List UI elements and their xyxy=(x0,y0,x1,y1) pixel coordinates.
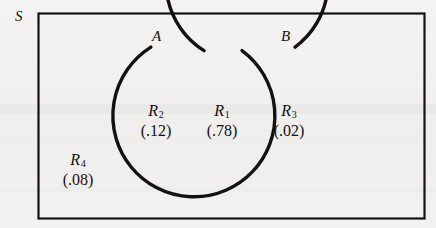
venn-diagram-figure: S A B R2 (.12) R1 (.78) R3 (.02) R4 (.08… xyxy=(0,0,436,228)
region-r3-name: R3 xyxy=(261,103,317,121)
region-r1: R1 (.78) xyxy=(190,103,254,140)
set-label-a: A xyxy=(152,29,161,44)
universe-label-s: S xyxy=(15,9,23,24)
region-r4-subscript: 4 xyxy=(80,158,86,169)
region-r2-value: (.12) xyxy=(128,122,184,140)
region-r4-value: (.08) xyxy=(50,171,106,189)
region-r3-subscript: 3 xyxy=(291,109,297,120)
region-r2-subscript: 2 xyxy=(158,109,164,120)
region-r2: R2 (.12) xyxy=(128,103,184,140)
region-r3-value: (.02) xyxy=(261,122,317,140)
region-r1-name: R1 xyxy=(190,103,254,121)
region-r1-value: (.78) xyxy=(190,122,254,140)
set-b-circle xyxy=(166,0,328,51)
set-label-b: B xyxy=(281,29,290,44)
region-r4: R4 (.08) xyxy=(50,152,106,189)
region-r1-subscript: 1 xyxy=(224,109,230,120)
region-r3: R3 (.02) xyxy=(261,103,317,140)
region-r2-name: R2 xyxy=(128,103,184,121)
region-r4-name: R4 xyxy=(50,152,106,170)
